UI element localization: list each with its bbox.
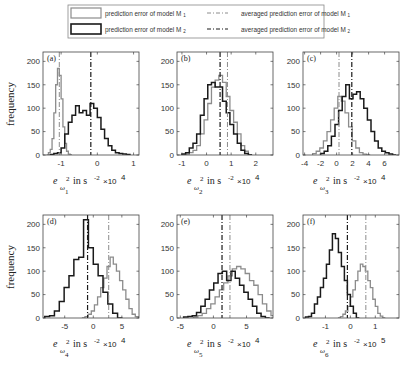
y-tick-label: 150 xyxy=(161,81,175,90)
panel-label: (e) xyxy=(181,217,190,226)
svg-text:3: 3 xyxy=(325,188,329,196)
svg-text:-2: -2 xyxy=(94,337,100,345)
x-tick-label: 0 xyxy=(334,159,339,168)
axes-frame xyxy=(177,215,273,318)
histogram-m2 xyxy=(50,104,130,156)
svg-text:2: 2 xyxy=(200,175,204,183)
histogram-panel-a: 050100150200-101(a)eω12in s-2×104 xyxy=(27,52,139,196)
svg-text:4: 4 xyxy=(255,173,260,182)
histogram-panel-e: 050100150200-505(e)eω52in s-2×104 xyxy=(161,215,284,359)
y-tick-label: 150 xyxy=(287,81,301,90)
x-tick-label: 5 xyxy=(244,322,249,331)
panel-label: (a) xyxy=(47,54,56,63)
y-tick-label: 50 xyxy=(165,290,174,299)
y-tick-label: 100 xyxy=(287,104,301,113)
x-tick-label: -1 xyxy=(58,159,66,168)
x-tick-label: 0 xyxy=(348,322,353,331)
svg-text:4: 4 xyxy=(255,336,260,345)
x-tick-label: 0 xyxy=(204,159,209,168)
svg-text:-2: -2 xyxy=(354,337,360,345)
y-tick-label: 0 xyxy=(170,151,175,160)
y-tick-label: 150 xyxy=(287,244,301,253)
svg-text:in s: in s xyxy=(73,175,87,186)
y-tick-label: 50 xyxy=(291,127,300,136)
histogram-m2 xyxy=(45,220,123,318)
svg-text:6: 6 xyxy=(325,351,329,359)
svg-text:e: e xyxy=(53,175,58,186)
y-tick-label: 150 xyxy=(27,81,41,90)
svg-text:5: 5 xyxy=(199,351,203,359)
x-tick-label: -1 xyxy=(178,159,186,168)
x-axis-label: eω12in s-2×104 xyxy=(53,173,126,196)
panel-label: (b) xyxy=(181,54,191,63)
svg-text:×10: ×10 xyxy=(237,340,251,349)
y-tick-label: 100 xyxy=(161,104,175,113)
y-tick-label: 200 xyxy=(27,220,41,229)
x-tick-label: 1 xyxy=(131,159,136,168)
histogram-panel-b: 050100150200-1012(b)eω22in s-2×104 xyxy=(161,52,273,196)
svg-text:2: 2 xyxy=(326,175,330,183)
panel-label: (f) xyxy=(307,217,315,226)
x-tick-label: 2 xyxy=(350,159,355,168)
x-tick-label: -2 xyxy=(317,159,325,168)
histogram-m1 xyxy=(194,267,284,319)
svg-text:e: e xyxy=(187,338,192,349)
svg-text:4: 4 xyxy=(381,173,386,182)
x-tick-label: -5 xyxy=(61,322,69,331)
x-tick-label: 1 xyxy=(229,159,234,168)
legend-label-m1: prediction error of model M xyxy=(105,10,181,18)
svg-text:e: e xyxy=(53,338,58,349)
x-tick-label: 1 xyxy=(373,322,378,331)
svg-text:2: 2 xyxy=(66,175,70,183)
x-tick-label: 0 xyxy=(91,322,96,331)
y-tick-label: 0 xyxy=(170,314,175,323)
y-tick-label: 100 xyxy=(287,267,301,276)
y-axis-label-top: frequency xyxy=(4,82,16,126)
histogram-m1 xyxy=(313,96,371,155)
svg-text:×10: ×10 xyxy=(363,177,377,186)
svg-text:4: 4 xyxy=(121,173,126,182)
svg-text:4: 4 xyxy=(65,351,69,359)
svg-text:×10: ×10 xyxy=(237,177,251,186)
histogram-m2 xyxy=(305,234,359,318)
x-tick-label: -5 xyxy=(177,322,185,331)
x-tick-label: -1 xyxy=(322,322,330,331)
svg-text:in s: in s xyxy=(333,338,347,349)
x-tick-label: 4 xyxy=(366,159,371,168)
x-axis-label: eω62in s-2×105 xyxy=(313,336,386,359)
x-tick-label: -4 xyxy=(301,159,309,168)
x-axis-label: eω52in s-2×104 xyxy=(187,336,260,359)
y-tick-label: 200 xyxy=(287,57,301,66)
y-tick-label: 100 xyxy=(27,267,41,276)
y-axis-label-bottom: frequency xyxy=(4,245,16,289)
y-tick-label: 0 xyxy=(296,314,301,323)
legend: prediction error of model M 1 prediction… xyxy=(68,5,351,38)
svg-text:in s: in s xyxy=(73,338,87,349)
svg-text:×10: ×10 xyxy=(103,340,117,349)
svg-text:4: 4 xyxy=(121,336,126,345)
svg-text:in s: in s xyxy=(207,338,221,349)
histogram-m1 xyxy=(82,257,142,318)
y-tick-label: 100 xyxy=(161,267,175,276)
histogram-panel-c: 050100150200-4-20246(c)eω32in s-2×104 xyxy=(287,52,399,196)
legend-label-avg-m1: averaged prediction error of model M xyxy=(241,10,346,18)
axes-frame xyxy=(43,215,139,318)
x-axis-label: eω42in s-2×104 xyxy=(53,336,126,359)
svg-text:1: 1 xyxy=(65,188,69,196)
svg-text:5: 5 xyxy=(381,336,386,345)
x-tick-label: 2 xyxy=(254,159,259,168)
x-tick-label: 0 xyxy=(211,322,216,331)
x-tick-label: 0 xyxy=(95,159,100,168)
svg-text:2: 2 xyxy=(199,188,203,196)
y-tick-label: 200 xyxy=(287,220,301,229)
y-tick-label: 50 xyxy=(31,127,40,136)
svg-text:e: e xyxy=(313,175,318,186)
svg-text:e: e xyxy=(313,338,318,349)
axes-frame xyxy=(177,52,273,155)
legend-label-m2: prediction error of model M xyxy=(105,26,181,34)
y-tick-label: 200 xyxy=(161,57,175,66)
y-tick-label: 200 xyxy=(161,220,175,229)
y-tick-label: 100 xyxy=(27,104,41,113)
y-tick-label: 0 xyxy=(36,314,41,323)
svg-text:e: e xyxy=(187,175,192,186)
